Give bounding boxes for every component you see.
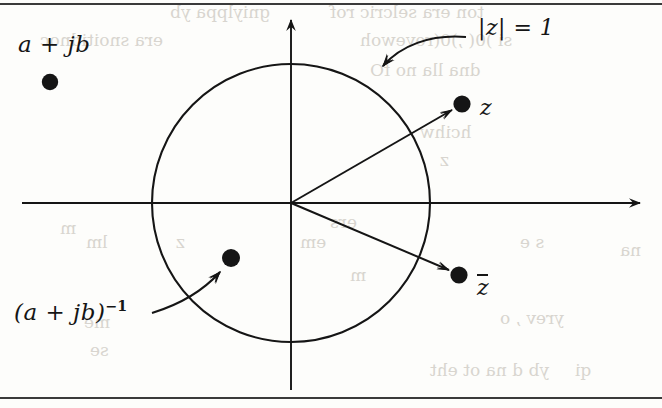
label-z-conjugate: z [477,277,489,299]
label-a-plus-jb: a + jb [18,33,90,56]
label-a-plus-jb-inverse: (a + jb)−1 [14,299,127,324]
point-a-plus-jb-inverse[interactable] [222,249,240,267]
complex-plane-figure: gniylppa yb era snoitidnoc ton era selcr… [0,0,662,408]
ray-to-z [291,110,452,203]
figure-canvas [0,0,662,408]
inverse-base: (a + jb) [14,299,105,325]
z-conjugate-overbar: z [477,277,489,299]
inverse-exponent: −1 [105,298,127,314]
point-z-conjugate[interactable] [450,266,467,283]
leader-unit-circle [383,37,466,66]
point-z[interactable] [453,95,470,112]
point-a-plus-jb[interactable] [42,74,58,90]
label-unit-circle: |z| = 1 [478,17,554,39]
label-z: z [480,97,492,119]
